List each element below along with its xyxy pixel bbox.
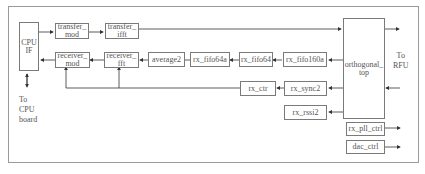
rx-fifo64a-block: rx_fifo64a: [190, 52, 230, 67]
cpu-if-block: CPU IF: [19, 22, 39, 71]
dac-ctrl-block: dac_ctrl: [346, 140, 385, 154]
receiver-mod-block: receiver_ mod: [55, 52, 90, 68]
orthogonal-top-block: orthogonal_ top: [343, 18, 385, 119]
rx-rssi2-block: rx_rssi2: [284, 105, 327, 120]
transfer-mod-block: transfer_ mod: [55, 23, 89, 39]
average2-block: average2: [148, 52, 185, 67]
to-rfu-label: To RFU: [393, 51, 409, 71]
rx-fifo64-block: rx_fifo64: [239, 52, 273, 67]
receiver-fft-block: receiver_ fft: [104, 52, 139, 68]
rx-fifo160a-block: rx_fifo160a: [283, 52, 327, 67]
rx-sync2-block: rx_sync2: [284, 81, 327, 96]
rx-ctr-block: rx_ctr: [240, 81, 276, 96]
rx-pll-ctrl-block: rx_pll_ctrl: [346, 122, 385, 136]
transfer-ifft-block: transfer_ ifft: [105, 23, 139, 39]
to-cpu-board-label: To CPU board: [19, 95, 37, 125]
